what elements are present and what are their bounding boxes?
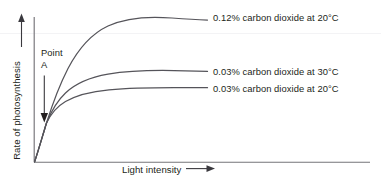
- legend-label-co2-003-30c: 0.03% carbon dioxide at 30°C: [213, 66, 339, 77]
- x-axis-label: Light intensity: [122, 164, 181, 175]
- point-a-label: Point A: [41, 47, 63, 70]
- legend-label-co2-012-20c: 0.12% carbon dioxide at 20°C: [213, 12, 339, 23]
- curve-co2-012-20c: [35, 17, 208, 161]
- legend-label-co2-003-20c: 0.03% carbon dioxide at 20°C: [213, 83, 339, 94]
- x-axis-direction-arrow: [186, 165, 215, 172]
- y-axis-label: Rate of photosynthesis: [11, 51, 22, 171]
- y-axis-direction-arrow: [18, 14, 25, 48]
- point-a-arrow-icon: [41, 76, 48, 123]
